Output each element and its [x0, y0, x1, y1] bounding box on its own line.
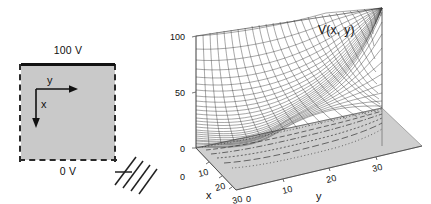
y-tick-30: 30	[371, 162, 383, 174]
surface-plot-canvas: 100 50 0 0 10 20 30 x 0 10 20 30 y	[166, 0, 431, 204]
x-tick-30: 30	[231, 194, 243, 204]
y-tick-10: 10	[281, 184, 293, 196]
base-plane	[196, 108, 422, 190]
figure-root: 100 V y x 0 V	[0, 0, 431, 204]
x-tick-10: 10	[197, 167, 209, 179]
x-tick-20: 20	[214, 181, 226, 193]
coordinate-axes: y x	[21, 66, 115, 160]
z-tick-0: 0	[180, 144, 185, 154]
z-tick-50: 50	[175, 88, 185, 98]
boundary-value-sketch: 100 V y x 0 V	[0, 0, 166, 204]
ground-icon	[112, 152, 160, 196]
z-tick-100: 100	[170, 32, 185, 42]
axis-y-letter: y	[47, 74, 53, 86]
y-tick-0: 0	[246, 194, 251, 204]
x-axis-label: x	[206, 189, 212, 201]
plot-title: V(x, y)	[318, 23, 355, 37]
surface-plot: 100 50 0 0 10 20 30 x 0 10 20 30 y V(x, …	[166, 0, 431, 204]
top-edge-voltage-label: 100 V	[21, 44, 115, 56]
axis-x-letter: x	[41, 98, 47, 110]
bottom-edge-voltage-label: 0 V	[21, 165, 115, 177]
base-origin-tick: 0	[180, 172, 185, 182]
y-tick-20: 20	[325, 173, 337, 185]
y-axis-label: y	[316, 190, 322, 202]
